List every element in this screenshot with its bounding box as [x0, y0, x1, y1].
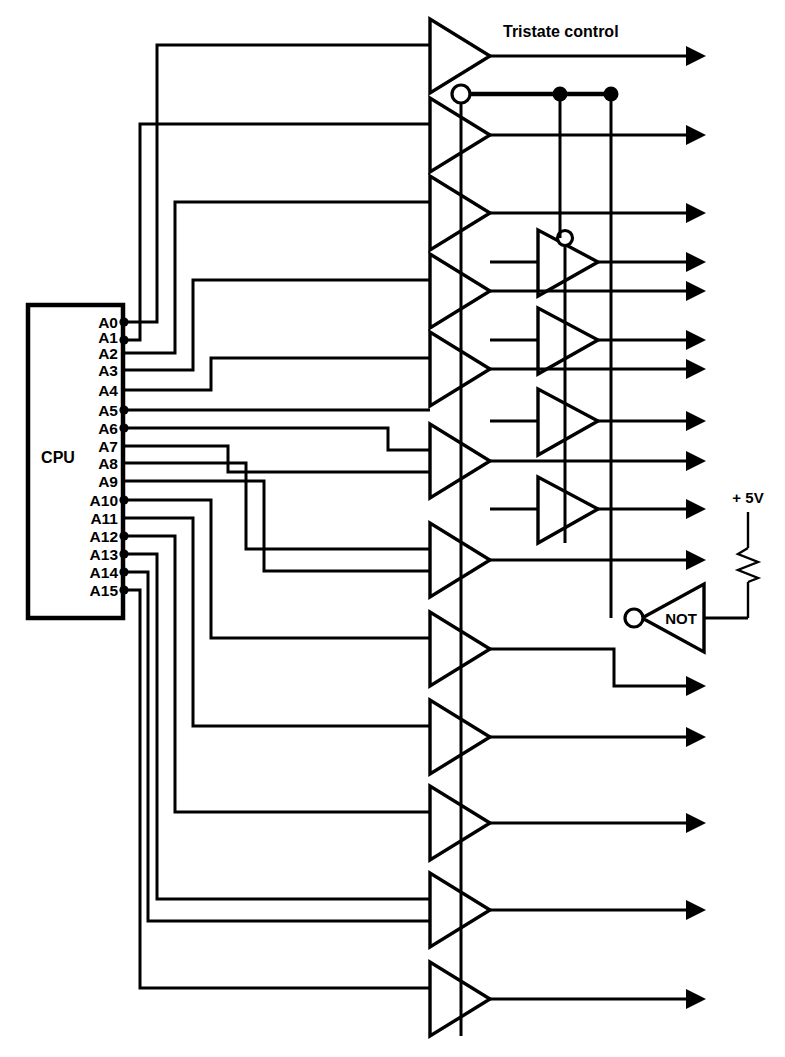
- pin-label-a8: A8: [98, 455, 118, 472]
- arrowhead-a14: [686, 989, 706, 1009]
- arrowhead-a11: [686, 727, 706, 747]
- pin-label-a3: A3: [98, 362, 118, 379]
- wire-a15: [124, 590, 430, 988]
- output-lines: [490, 56, 688, 999]
- wire-a4: [124, 358, 430, 390]
- arrowhead-a2: [686, 252, 706, 272]
- inverter-bubble-icon: [452, 85, 470, 103]
- arrowhead-a6: [686, 411, 706, 431]
- buffer-b3[interactable]: [538, 477, 598, 543]
- arrowhead-a3b: [686, 281, 706, 301]
- arrowhead-a7: [686, 451, 706, 471]
- bus-routing-upper: [124, 45, 430, 571]
- arrowhead-a12: [686, 813, 706, 833]
- not-gate-group: NOT: [625, 584, 748, 652]
- cpu-label: CPU: [41, 449, 75, 466]
- pin-label-a1: A1: [98, 329, 118, 346]
- wire-a14: [124, 572, 430, 921]
- buffer-b1[interactable]: [538, 308, 598, 374]
- wire-output-a10-step: [490, 649, 688, 686]
- tristate-control-label: Tristate control: [503, 23, 619, 40]
- buffer-column-second: [538, 230, 598, 543]
- pullup-network: + 5V: [732, 489, 763, 618]
- resistor-symbol: [738, 548, 758, 582]
- not-gate-label: NOT: [665, 610, 697, 627]
- arrowhead-a13: [686, 900, 706, 920]
- second-column-input-stubs: [490, 262, 538, 509]
- pin-label-a13: A13: [90, 546, 119, 563]
- arrowhead-a1: [686, 203, 706, 223]
- pin-label-a9: A9: [98, 473, 118, 490]
- arrowhead-a8: [686, 499, 706, 519]
- buffer-tristate-control[interactable]: [430, 19, 490, 93]
- pin-label-a7: A7: [98, 438, 118, 455]
- pin-label-a15: A15: [90, 582, 119, 599]
- pin-label-a5: A5: [98, 402, 118, 419]
- pin-label-a4: A4: [98, 382, 118, 399]
- not-bubble-icon: [625, 609, 643, 627]
- arrowhead-a0: [686, 125, 706, 145]
- wire-a12: [124, 536, 430, 812]
- schematic-canvas: CPU A0 A1 A2 A3 A4 A5 A6 A7 A8 A9 A10 A1…: [0, 0, 785, 1057]
- pin-label-a10: A10: [90, 492, 118, 509]
- output-arrowheads: [686, 46, 706, 1009]
- wire-a9: [124, 481, 430, 571]
- arrowhead-tristate-control: [686, 46, 706, 66]
- supply-label: + 5V: [732, 489, 763, 506]
- pin-label-a14: A14: [90, 564, 119, 581]
- buffer-b2[interactable]: [538, 389, 598, 455]
- arrowhead-a4: [686, 330, 706, 350]
- wire-a1: [124, 124, 430, 340]
- arrowhead-a10: [686, 676, 706, 696]
- wire-a10: [124, 500, 430, 638]
- bus-routing-lower: [124, 500, 430, 988]
- wire-a2: [124, 202, 430, 353]
- pin-label-a6: A6: [98, 420, 118, 437]
- arrowhead-a9: [686, 550, 706, 570]
- pin-label-a11: A11: [90, 510, 118, 527]
- arrowhead-a5: [686, 359, 706, 379]
- circuit-diagram: CPU A0 A1 A2 A3 A4 A5 A6 A7 A8 A9 A10 A1…: [0, 0, 785, 1057]
- pin-label-a12: A12: [90, 528, 118, 545]
- pin-label-a2: A2: [98, 345, 118, 362]
- wire-a7: [124, 446, 430, 472]
